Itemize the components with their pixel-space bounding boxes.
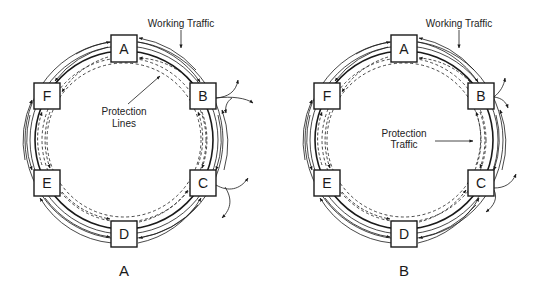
svg-text:F: F	[43, 88, 52, 104]
svg-text:F: F	[323, 88, 332, 104]
ring-arrows	[23, 38, 228, 243]
protection-lines-label-2: Lines	[112, 118, 136, 129]
ring-protection-diagram: A B C D E F Working Traffic Protection L…	[0, 0, 537, 294]
panel-label-b: B	[399, 262, 409, 279]
panel-label-a: A	[119, 262, 129, 279]
node-e: E	[34, 170, 60, 196]
panel-b: A B C D E F Working Traffic Protection T…	[303, 18, 516, 279]
node-f: F	[314, 83, 340, 109]
svg-text:D: D	[119, 226, 129, 242]
svg-text:A: A	[119, 41, 129, 57]
panel-a: A B C D E F Working Traffic Protection L…	[23, 18, 253, 279]
svg-text:E: E	[42, 175, 51, 191]
working-line	[30, 46, 218, 234]
node-f: F	[34, 83, 60, 109]
working-traffic-label: Working Traffic	[148, 18, 214, 29]
node-a: A	[111, 35, 137, 62]
svg-text:A: A	[399, 41, 409, 57]
svg-text:B: B	[198, 88, 207, 104]
working-traffic-label: Working Traffic	[426, 18, 492, 29]
svg-text:E: E	[322, 175, 331, 191]
node-d: D	[111, 221, 137, 247]
fiber-line	[35, 51, 213, 229]
protection-line-inner	[47, 63, 201, 217]
svg-text:C: C	[198, 175, 208, 191]
protection-lines-pointer	[128, 76, 160, 104]
node-d: D	[391, 221, 417, 247]
node-b: B	[190, 83, 216, 109]
protection-traffic-label-1: Protection	[381, 128, 426, 139]
add-drop-arrows	[216, 80, 253, 218]
node-c: C	[468, 170, 494, 196]
svg-text:C: C	[476, 175, 486, 191]
node-c: C	[190, 170, 216, 196]
node-e: E	[314, 170, 340, 196]
protection-lines-label-1: Protection	[101, 106, 146, 117]
node-a: A	[391, 35, 417, 62]
node-b: B	[468, 83, 494, 109]
svg-text:D: D	[399, 226, 409, 242]
svg-text:B: B	[476, 88, 485, 104]
protection-traffic-label-2: Traffic	[390, 139, 417, 150]
